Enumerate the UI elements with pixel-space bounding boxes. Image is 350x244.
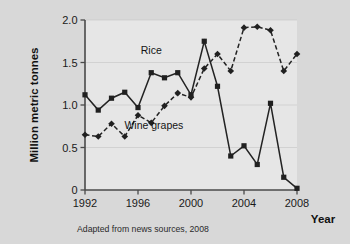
data-point-marker-rice bbox=[202, 39, 207, 44]
y-tick-label: 1.5 bbox=[62, 57, 77, 69]
data-point-marker-rice bbox=[281, 175, 286, 180]
data-point-marker-rice bbox=[109, 96, 114, 101]
x-tick-label: 1996 bbox=[126, 197, 150, 209]
y-tick-label: 0 bbox=[71, 184, 77, 196]
x-axis-title: Year bbox=[311, 213, 336, 225]
x-tick-label: 1992 bbox=[73, 197, 97, 209]
y-tick-label: 1.0 bbox=[62, 99, 77, 111]
data-point-marker-rice bbox=[255, 162, 260, 167]
x-tick-label: 2004 bbox=[232, 197, 256, 209]
data-point-marker-rice bbox=[294, 186, 299, 191]
y-tick-label: 0.5 bbox=[62, 142, 77, 154]
data-point-marker-rice bbox=[162, 75, 167, 80]
series-label-wine-grapes: Wine grapes bbox=[124, 119, 183, 131]
data-point-marker-rice bbox=[122, 90, 127, 95]
y-tick-label: 2.0 bbox=[62, 14, 77, 26]
data-point-marker-rice bbox=[149, 70, 154, 75]
data-point-marker-rice bbox=[82, 92, 87, 97]
x-tick-label: 2008 bbox=[285, 197, 309, 209]
data-point-marker-rice bbox=[175, 70, 180, 75]
series-label-rice: Rice bbox=[141, 44, 162, 56]
data-point-marker-rice bbox=[96, 108, 101, 113]
data-point-marker-rice bbox=[228, 153, 233, 158]
production-line-chart: 00.51.01.52.0 19921996200020042008 RiceW… bbox=[0, 0, 350, 244]
source-caption: Adapted from news sources, 2008 bbox=[77, 224, 209, 234]
data-point-marker-rice bbox=[241, 143, 246, 148]
data-point-marker-rice bbox=[215, 84, 220, 89]
chart-figure: 00.51.01.52.0 19921996200020042008 RiceW… bbox=[0, 0, 350, 244]
y-axis-title: Million metric tonnes bbox=[28, 47, 40, 162]
data-point-marker-rice bbox=[268, 101, 273, 106]
x-tick-label: 2000 bbox=[179, 197, 203, 209]
data-point-marker-rice bbox=[135, 105, 140, 110]
